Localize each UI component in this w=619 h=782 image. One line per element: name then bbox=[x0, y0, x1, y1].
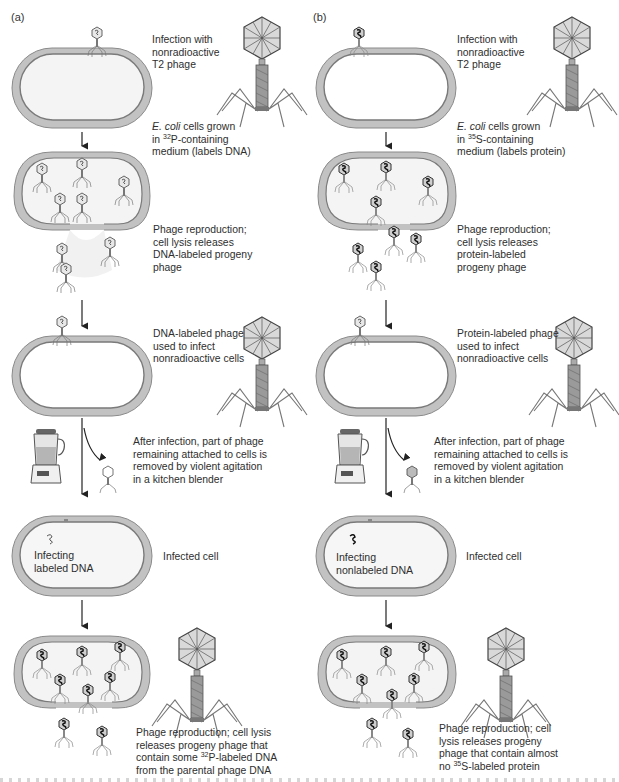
blender-icon bbox=[335, 429, 368, 483]
t2-phage-icon bbox=[217, 17, 307, 127]
step-infection-text: Infection with nonradioactive T2 phage bbox=[457, 34, 525, 72]
text-part: in bbox=[152, 134, 163, 145]
step-growth-text: E. coli cells grownin 35S-containingmedi… bbox=[457, 121, 566, 159]
cropped-caption-edge bbox=[0, 778, 619, 782]
text-part: contain some bbox=[136, 752, 201, 763]
text-part: Phage reproduction; cell lysis bbox=[136, 727, 271, 738]
isotope-mass-number: 32 bbox=[163, 133, 171, 140]
species-name: E. coli bbox=[152, 121, 180, 132]
panel-a-dna-labeling: (a) bbox=[0, 0, 309, 782]
step-infected-cell-text: Infected cell bbox=[163, 551, 218, 564]
step-reproduction-text: Phage reproduction; cell lysis releases … bbox=[457, 224, 551, 274]
ecoli-cell-icon bbox=[12, 48, 152, 128]
isotope-mass-number: 35 bbox=[468, 133, 476, 140]
blender-icon bbox=[31, 429, 64, 483]
text-part: from the parental phage DNA bbox=[136, 765, 271, 776]
step-reproduction-text: Phage reproduction; cell lysis releases … bbox=[153, 224, 252, 274]
text-part: cells grown bbox=[180, 121, 235, 132]
step-labeled-infect-text: Protein-labeled phage used to infect non… bbox=[457, 328, 559, 366]
text-part: S-containing bbox=[476, 134, 534, 145]
text-part: Phage reproduction; cell bbox=[439, 723, 551, 734]
step-labeled-infect-text: DNA-labeled phage used to infect nonradi… bbox=[153, 328, 244, 366]
ecoli-cell-icon bbox=[316, 336, 456, 416]
phage-ghost-icon bbox=[404, 466, 420, 493]
ecoli-cell-icon bbox=[316, 48, 456, 128]
ecoli-cell-icon bbox=[12, 336, 152, 416]
text-part: cells grown bbox=[485, 121, 540, 132]
panel-a-illustration bbox=[0, 0, 309, 782]
panel-b-illustration bbox=[310, 0, 619, 782]
isotope-mass-number: 32 bbox=[201, 751, 209, 758]
text-part: releases progeny phage that bbox=[136, 740, 268, 751]
infecting-dna-label: Infecting nonlabeled DNA bbox=[336, 551, 413, 577]
text-part: P-labeled DNA bbox=[209, 752, 278, 763]
text-part: phage that contain almost bbox=[439, 748, 558, 759]
step-infected-cell-text: Infected cell bbox=[466, 551, 521, 564]
infecting-dna-label: Infecting labeled DNA bbox=[34, 549, 93, 575]
panel-b-protein-labeling: (b) bbox=[310, 0, 619, 782]
step-infection-text: Infection with nonradioactive T2 phage bbox=[152, 34, 220, 72]
step-blender-text: After infection, part of phage remaining… bbox=[133, 436, 267, 486]
step-growth-text: E. coli cells grownin 32P-containingmedi… bbox=[152, 121, 251, 159]
species-name: E. coli bbox=[457, 121, 485, 132]
phage-ghost-icon bbox=[100, 466, 116, 493]
text-part: medium (labels protein) bbox=[457, 146, 566, 157]
step-blender-text: After infection, part of phage remaining… bbox=[434, 436, 568, 486]
text-part: S-labeled protein bbox=[461, 761, 540, 772]
step-progeny-text: Phage reproduction; cell lysisreleases p… bbox=[136, 727, 277, 777]
text-part: P-containing bbox=[171, 134, 229, 145]
text-part: medium (labels DNA) bbox=[152, 146, 251, 157]
text-part: no bbox=[439, 761, 453, 772]
text-part: in bbox=[457, 134, 468, 145]
text-part: lysis releases progeny bbox=[439, 736, 542, 747]
step-progeny-text: Phage reproduction; celllysis releases p… bbox=[439, 723, 558, 773]
